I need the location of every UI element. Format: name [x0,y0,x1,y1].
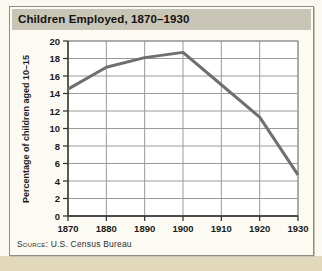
svg-text:1930: 1930 [287,223,308,234]
chart-title: Children Employed, 1870–1930 [18,13,190,25]
svg-text:1900: 1900 [172,223,193,234]
svg-text:12: 12 [49,106,60,117]
svg-text:14: 14 [49,88,60,99]
svg-text:8: 8 [55,141,60,152]
source-label: Source: [17,239,48,249]
svg-text:20: 20 [49,36,60,47]
svg-text:1920: 1920 [249,223,270,234]
source-text: U.S. Census Bureau [51,239,132,249]
svg-text:1910: 1910 [211,223,232,234]
svg-text:4: 4 [55,176,61,187]
svg-text:1880: 1880 [96,223,117,234]
page: { "title": "Children Employed, 1870–1930… [0,0,322,271]
svg-text:18: 18 [49,53,60,64]
svg-text:2: 2 [55,193,60,204]
svg-text:16: 16 [49,71,60,82]
svg-text:10: 10 [49,123,60,134]
line-chart-plot: 0246810121416182018701880189019001910192… [10,30,311,235]
chart-card: Children Employed, 1870–1930 Percentage … [9,6,314,256]
chart-title-bar: Children Employed, 1870–1930 [12,9,311,30]
svg-text:0: 0 [55,211,60,222]
source-line: Source: U.S. Census Bureau [17,239,132,249]
svg-text:1890: 1890 [134,223,155,234]
page-background-strip [0,256,322,271]
svg-text:1870: 1870 [57,223,78,234]
svg-text:6: 6 [55,158,60,169]
